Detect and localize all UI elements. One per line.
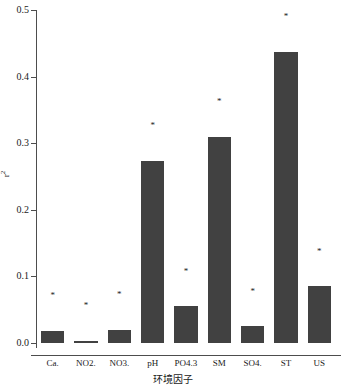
x-axis-tick-label: PO4.3	[169, 358, 202, 368]
y-axis-title: r2	[0, 171, 11, 178]
y-axis-tick	[31, 343, 37, 344]
significance-asterisk: *	[248, 287, 258, 296]
x-axis-tick-label: Ca.	[36, 358, 69, 368]
bar	[174, 306, 197, 343]
x-axis-tick-label: pH	[136, 358, 169, 368]
bar	[74, 341, 97, 343]
bar	[208, 137, 231, 343]
x-axis-tick-label: SM	[203, 358, 236, 368]
significance-asterisk: *	[48, 291, 58, 300]
x-axis-line	[31, 355, 341, 356]
bar-chart: r2 0.00.10.20.30.40.5 ********* Ca.NO2.N…	[0, 0, 345, 392]
x-axis-tick-label: SO4.	[236, 358, 269, 368]
significance-asterisk: *	[314, 247, 324, 256]
x-axis-tick-label: US	[303, 358, 336, 368]
y-axis-tick-label: 0.2	[3, 205, 29, 215]
significance-asterisk: *	[114, 290, 124, 299]
y-axis-tick-label: 0.0	[3, 338, 29, 348]
x-axis-tick-label: NO3.	[103, 358, 136, 368]
bar	[141, 161, 164, 343]
bar	[241, 326, 264, 343]
significance-asterisk: *	[148, 121, 158, 130]
y-axis-tick-label: 0.5	[3, 5, 29, 15]
bar	[274, 52, 297, 343]
x-axis-tick-label: NO2.	[69, 358, 102, 368]
y-axis-tick-label: 0.1	[3, 271, 29, 281]
bars-layer	[36, 10, 336, 343]
bar	[41, 331, 64, 343]
x-axis-tick-label: ST	[269, 358, 302, 368]
significance-asterisk: *	[81, 301, 91, 310]
y-axis-tick-label: 0.3	[3, 138, 29, 148]
significance-asterisk: *	[214, 97, 224, 106]
bar	[308, 286, 331, 343]
significance-asterisk: *	[181, 267, 191, 276]
y-axis-tick-label: 0.4	[3, 72, 29, 82]
bar	[108, 330, 131, 343]
x-axis-title: 环境因子	[0, 374, 345, 386]
significance-asterisk: *	[281, 12, 291, 21]
